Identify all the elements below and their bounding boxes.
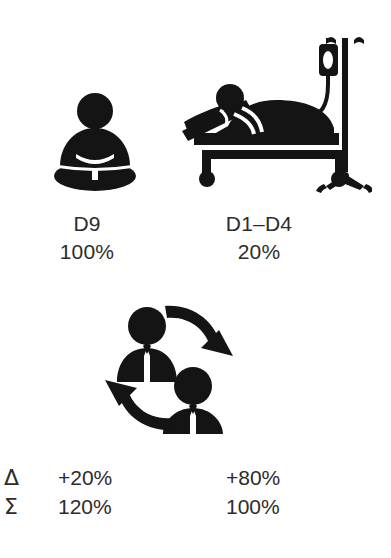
figure-canvas: D9 100% D1–D4 20% — [0, 0, 391, 558]
sigma-right-value: 100% — [210, 493, 380, 520]
pictogram-label-value: 100% — [25, 239, 149, 265]
sigma-left-value: 120% — [50, 493, 210, 520]
pictogram-label-name: D1–D4 — [180, 211, 338, 237]
delta-symbol: Δ — [0, 464, 50, 493]
patient-in-hospital-bed-with-iv-drip-icon — [176, 24, 372, 194]
pictogram-row — [0, 0, 391, 200]
summary-table: Δ +20% +80% Σ 120% 100% — [0, 464, 391, 522]
pictogram-label-value: 20% — [180, 239, 338, 265]
two-people-exchange-cycle-icon — [101, 300, 235, 436]
delta-right-value: +80% — [210, 464, 380, 491]
pictogram-label-d1-d4: D1–D4 20% — [180, 211, 338, 264]
summary-row-delta: Δ +20% +80% — [0, 464, 391, 493]
delta-left-value: +20% — [50, 464, 210, 491]
pictogram-label-name: D9 — [25, 211, 149, 237]
sigma-symbol: Σ — [0, 493, 50, 522]
summary-row-sigma: Σ 120% 100% — [0, 493, 391, 522]
pictogram-label-d9: D9 100% — [25, 211, 149, 264]
meditating-person-icon — [52, 92, 138, 194]
